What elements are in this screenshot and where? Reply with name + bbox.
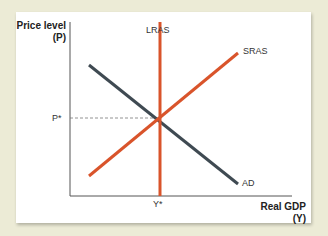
p-star-label: P* [52,113,62,123]
x-axis-label-line1: Real GDP [230,201,306,213]
ad-curve [89,65,238,184]
y-axis-label-line2: (P) [8,32,66,44]
ad-label: AD [242,178,255,188]
lras-label: LRAS [146,25,170,35]
sras-curve [89,53,238,176]
y-axis-label-line1: Price level [8,20,66,32]
sras-label: SRAS [243,46,268,56]
x-axis-label-line2: (Y) [230,213,306,225]
y-axis-label: Price level (P) [8,20,66,44]
y-star-label: Y* [153,199,163,209]
x-axis-label: Real GDP (Y) [230,201,306,225]
